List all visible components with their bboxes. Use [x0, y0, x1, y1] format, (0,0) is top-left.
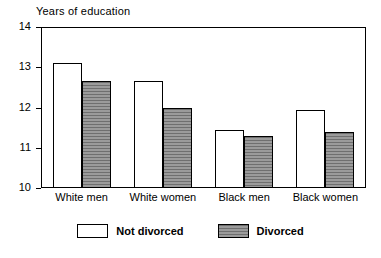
- legend-item-not-divorced: Not divorced: [77, 224, 183, 238]
- bar-divorced: [82, 81, 111, 188]
- x-tick-label: Black women: [265, 191, 381, 204]
- y-tick-label: 12: [19, 102, 31, 113]
- legend-label-divorced: Divorced: [257, 225, 304, 237]
- legend-label-not-divorced: Not divorced: [116, 225, 183, 237]
- legend-item-divorced: Divorced: [218, 224, 304, 238]
- y-tick-label: 13: [19, 61, 31, 72]
- chart-legend: Not divorced Divorced: [0, 224, 381, 238]
- bar-divorced: [325, 132, 354, 188]
- bar-notdivorced: [134, 81, 163, 188]
- y-tick-label: 11: [20, 142, 31, 153]
- x-axis-labels: White menWhite womenBlack menBlack women: [41, 191, 366, 211]
- legend-swatch-not-divorced: [77, 224, 108, 238]
- bars-layer: [41, 27, 366, 188]
- bar-notdivorced: [215, 130, 244, 188]
- chart-title: Years of education: [36, 5, 130, 17]
- bar-notdivorced: [53, 63, 82, 188]
- legend-swatch-divorced: [218, 224, 249, 238]
- bar-notdivorced: [296, 110, 325, 188]
- y-axis: 1011121314: [0, 0, 41, 258]
- y-tick-mark: [36, 188, 41, 189]
- y-tick-label: 14: [19, 21, 31, 32]
- bar-divorced: [163, 108, 192, 189]
- bar-divorced: [244, 136, 273, 188]
- bar-chart: Years of education 1011121314 White menW…: [0, 0, 381, 258]
